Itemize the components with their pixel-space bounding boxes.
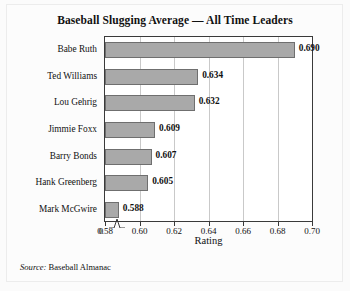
bar[interactable] <box>105 69 198 85</box>
source-note: Source: Baseball Almanac <box>20 262 111 272</box>
y-axis-label: Hank Greenberg <box>0 177 97 187</box>
chart-figure: Baseball Slugging Average — All Time Lea… <box>0 0 350 291</box>
bar-row <box>105 149 312 165</box>
bar[interactable] <box>105 42 295 58</box>
bar[interactable] <box>105 175 148 191</box>
x-axis-label: Rating <box>104 235 313 246</box>
bar-value-label: 0.634 <box>202 70 223 80</box>
source-keyword: Source: <box>20 262 46 272</box>
bar-value-label: 0.690 <box>299 43 320 53</box>
y-axis-label: Babe Ruth <box>0 44 97 54</box>
page-title: Baseball Slugging Average — All Time Lea… <box>0 14 350 26</box>
bar-value-label: 0.605 <box>152 176 173 186</box>
bar-value-label: 0.609 <box>159 123 180 133</box>
y-axis-label: Barry Bonds <box>0 151 97 161</box>
bar-row <box>105 42 312 58</box>
y-axis-category-labels: Babe RuthTed WilliamsLou GehrigJimmie Fo… <box>0 36 97 222</box>
bar-value-label: 0.632 <box>199 96 220 106</box>
source-text: Baseball Almanac <box>49 262 111 272</box>
bar-value-label: 0.607 <box>156 150 177 160</box>
axis-break-icon <box>109 219 125 228</box>
bar-row <box>105 175 312 191</box>
y-axis-label: Mark McGwire <box>0 204 97 214</box>
y-axis-label: Jimmie Foxx <box>0 124 97 134</box>
bar[interactable] <box>105 122 155 138</box>
plot-area <box>104 36 313 222</box>
y-axis-label: Ted Williams <box>0 71 97 81</box>
bar-row <box>105 122 312 138</box>
bar-value-label: 0.588 <box>123 203 144 213</box>
y-axis-label: Lou Gehrig <box>0 97 97 107</box>
bar[interactable] <box>105 202 119 218</box>
bar[interactable] <box>105 95 195 111</box>
bar[interactable] <box>105 149 152 165</box>
